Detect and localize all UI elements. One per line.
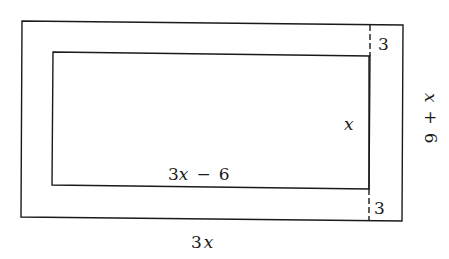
svg-text:3x−6: 3x−6	[168, 164, 230, 184]
inner-width-label: 3x−6	[168, 164, 230, 184]
inner-rectangle	[52, 52, 370, 189]
outer-height-label: x+6	[421, 93, 441, 144]
border-diagram: 3 3 x 3x−6 3x x+6	[0, 0, 449, 259]
bottom-margin-label: 3	[374, 198, 385, 218]
outer-width-label: 3x	[191, 232, 214, 252]
inner-height-label: x	[344, 114, 354, 134]
top-margin-label: 3	[378, 34, 389, 54]
svg-text:x+6: x+6	[421, 93, 441, 144]
svg-text:3x: 3x	[191, 232, 214, 252]
